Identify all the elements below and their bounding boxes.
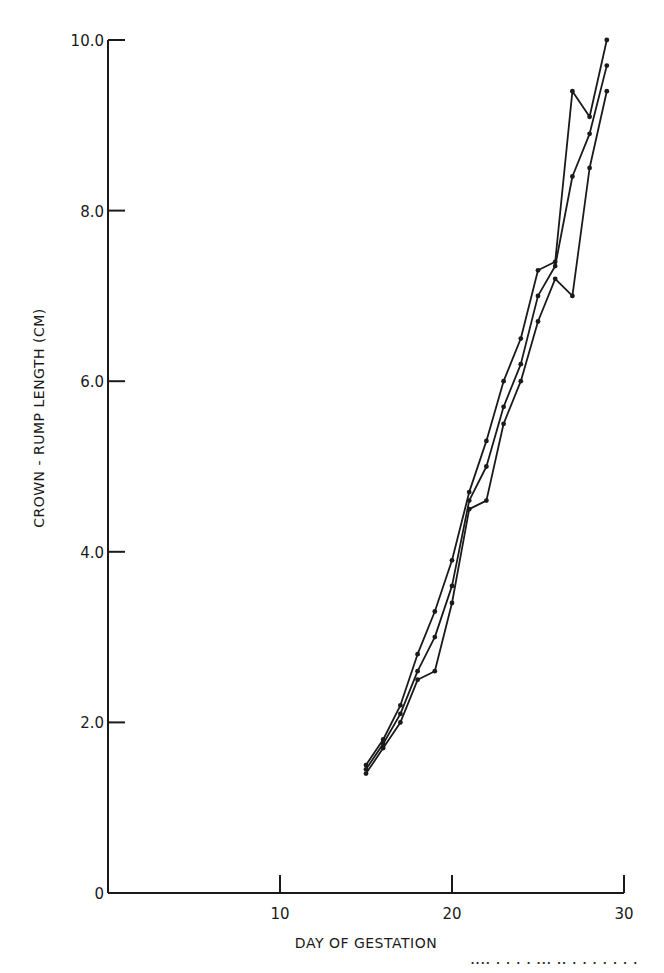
series-b xyxy=(364,63,610,772)
data-point-marker xyxy=(604,38,609,43)
data-point-marker xyxy=(570,174,575,179)
data-point-marker xyxy=(484,498,489,503)
y-axis-ticks: 02.04.06.08.010.0 xyxy=(71,32,125,903)
data-point-marker xyxy=(450,558,455,563)
y-tick-label: 0 xyxy=(94,885,104,903)
x-tick-label: 20 xyxy=(442,905,461,923)
data-point-marker xyxy=(518,379,523,384)
data-point-marker xyxy=(398,720,403,725)
data-point-marker xyxy=(501,404,506,409)
data-point-marker xyxy=(553,276,558,281)
data-point-marker xyxy=(415,652,420,657)
x-axis-title: DAY OF GESTATION xyxy=(295,935,437,951)
data-point-marker xyxy=(536,294,541,299)
x-axis-ticks: 102030 xyxy=(270,875,633,923)
data-point-marker xyxy=(484,464,489,469)
data-point-marker xyxy=(536,268,541,273)
series-c xyxy=(364,89,610,776)
data-point-marker xyxy=(467,507,472,512)
data-point-marker xyxy=(415,677,420,682)
data-point-marker xyxy=(587,166,592,171)
series-line xyxy=(366,66,607,770)
data-point-marker xyxy=(604,63,609,68)
caption-fragment: ···· · · · · ··· ·· · · · · · · · xyxy=(0,962,664,973)
data-point-marker xyxy=(432,635,437,640)
data-point-marker xyxy=(570,294,575,299)
data-point-marker xyxy=(467,490,472,495)
data-point-marker xyxy=(398,711,403,716)
growth-chart: 02.04.06.08.010.0 102030 DAY OF GESTATIO… xyxy=(0,0,664,973)
data-point-marker xyxy=(381,746,386,751)
data-point-marker xyxy=(432,609,437,614)
data-point-marker xyxy=(467,498,472,503)
data-series xyxy=(364,38,610,776)
data-point-marker xyxy=(432,669,437,674)
data-point-marker xyxy=(450,601,455,606)
data-point-marker xyxy=(398,703,403,708)
y-tick-label: 10.0 xyxy=(71,32,104,50)
data-point-marker xyxy=(518,336,523,341)
data-point-marker xyxy=(518,362,523,367)
x-tick-label: 30 xyxy=(614,905,633,923)
data-point-marker xyxy=(450,584,455,589)
caption-text: ···· · · · · ··· ·· · · · · · · · xyxy=(0,962,664,973)
y-tick-label: 2.0 xyxy=(80,714,104,732)
data-point-marker xyxy=(587,114,592,119)
y-tick-label: 6.0 xyxy=(80,373,104,391)
series-a xyxy=(364,38,610,768)
data-point-marker xyxy=(553,264,558,269)
series-line xyxy=(366,91,607,773)
data-point-marker xyxy=(501,421,506,426)
data-point-marker xyxy=(604,89,609,94)
series-line xyxy=(366,40,607,765)
data-point-marker xyxy=(570,89,575,94)
data-point-marker xyxy=(484,439,489,444)
data-point-marker xyxy=(536,319,541,324)
data-point-marker xyxy=(501,379,506,384)
data-point-marker xyxy=(415,669,420,674)
data-point-marker xyxy=(364,771,369,776)
y-axis-title: CROWN - RUMP LENGTH (CM) xyxy=(31,308,47,528)
y-tick-label: 4.0 xyxy=(80,544,104,562)
data-point-marker xyxy=(587,131,592,136)
y-tick-label: 8.0 xyxy=(80,203,104,221)
x-tick-label: 10 xyxy=(270,905,289,923)
